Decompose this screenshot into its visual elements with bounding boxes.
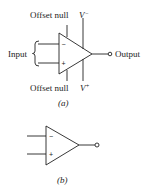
op-amp-a	[33, 18, 112, 81]
op-amp-triangle-b	[46, 126, 79, 165]
noninverting-sign-b: +	[49, 151, 53, 158]
op-amp-diagrams: − + Offset null V− Input Output Offset n…	[0, 0, 150, 186]
caption-b: (b)	[57, 175, 68, 185]
inverting-sign-a: −	[62, 41, 66, 48]
op-amp-b	[27, 126, 99, 165]
inverting-sign-b: −	[49, 133, 53, 140]
output-terminal-b	[95, 143, 99, 147]
caption-a: (a)	[58, 98, 69, 108]
op-amp-triangle-a	[59, 33, 92, 74]
output-terminal	[108, 52, 112, 56]
input-label: Input	[8, 49, 27, 59]
offset-null-top-label: Offset null	[30, 10, 69, 20]
v-plus-label: V+	[80, 83, 90, 93]
offset-null-bottom-label: Offset null	[30, 83, 69, 93]
noninverting-sign-a: +	[62, 60, 66, 67]
output-label: Output	[115, 49, 141, 59]
input-brace	[33, 41, 40, 66]
v-minus-label: V−	[79, 10, 89, 20]
